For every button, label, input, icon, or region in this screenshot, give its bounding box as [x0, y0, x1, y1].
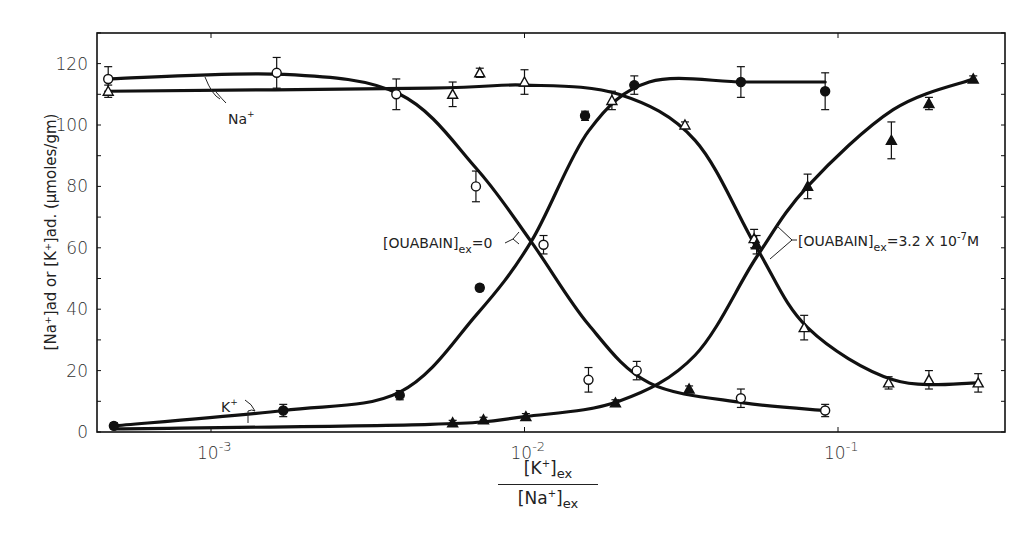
y-tick-label: 20	[66, 361, 88, 381]
data-point-filled-circle	[109, 421, 118, 430]
data-point-filled-triangle	[924, 97, 934, 109]
k-leader-lines	[245, 400, 255, 423]
x-tick-label: 10-1	[824, 439, 859, 463]
data-point-open-triangle	[680, 120, 690, 129]
data-point-filled-triangle	[479, 415, 489, 424]
data-point-filled-circle	[581, 111, 590, 120]
data-point-filled-triangle	[886, 122, 896, 159]
data-point-open-triangle	[448, 82, 458, 107]
data-point-open-triangle	[103, 85, 113, 97]
data-point-filled-triangle	[684, 384, 694, 393]
data-point-filled-triangle	[968, 74, 978, 83]
data-point-open-circle	[272, 57, 281, 88]
data-point-open-circle	[584, 368, 593, 393]
ouabain-zero-label: [OUABAIN]ex=0	[383, 235, 492, 256]
data-point-open-circle	[539, 236, 548, 254]
x-axis-label-numerator: [K+]ex	[498, 458, 598, 485]
y-tick-label: 0	[77, 422, 88, 442]
x-axis-label: [K+]ex [Na+]ex	[498, 458, 598, 512]
data-point-open-triangle	[520, 70, 530, 95]
data-point-filled-circle	[395, 391, 404, 400]
y-tick-label: 40	[66, 299, 88, 319]
x-tick-label: 10-3	[197, 439, 232, 463]
y-tick-label: 60	[66, 238, 88, 258]
data-point-open-circle	[392, 79, 401, 110]
x-axis-label-denominator: [Na+]ex	[498, 485, 598, 511]
data-point-open-circle	[821, 404, 830, 416]
data-point-filled-circle	[475, 283, 484, 292]
ouabain-zero-leader	[505, 232, 519, 244]
y-tick-label: 120	[56, 54, 88, 74]
data-point-filled-triangle	[803, 174, 813, 199]
data-point-filled-circle	[279, 404, 288, 416]
data-point-filled-circle	[736, 67, 745, 98]
data-point-filled-circle	[821, 73, 830, 110]
ouabain-high-label: [OUABAIN]ex=3.2 X 10-7M	[798, 231, 979, 254]
data-point-open-triangle	[973, 374, 983, 392]
na-label: Na+	[228, 109, 255, 127]
data-point-open-circle	[736, 389, 745, 407]
data-point-open-triangle	[475, 68, 485, 78]
y-tick-label: 100	[56, 115, 88, 135]
k-label: K+	[221, 397, 238, 415]
y-tick-label: 80	[66, 176, 88, 196]
y-axis-label: [Na⁺]ad or [K⁺]ad. (µmoles/gm)	[42, 114, 60, 351]
data-point-open-circle	[471, 171, 480, 202]
